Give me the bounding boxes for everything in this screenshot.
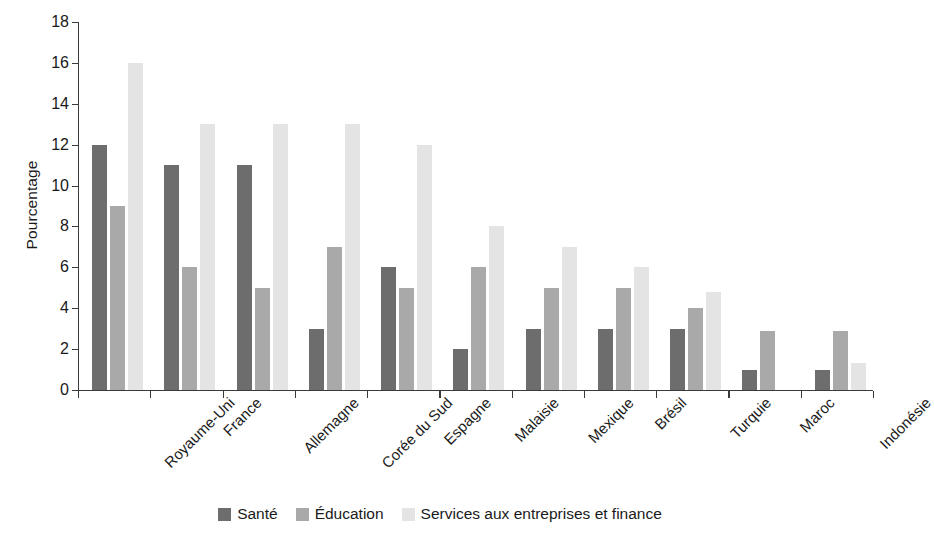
y-axis-tick-mark: [72, 186, 78, 187]
bar: [489, 226, 504, 390]
y-axis-tick-mark: [72, 349, 78, 350]
y-axis-tick-mark: [72, 308, 78, 309]
bar-group: [381, 22, 435, 390]
bar: [616, 288, 631, 390]
y-axis-tick-label: 16: [51, 54, 69, 72]
bar: [399, 288, 414, 390]
x-axis-tick-mark: [873, 391, 874, 398]
x-axis-labels: Royaume-UniFranceAllemagneCorée du SudEs…: [78, 394, 873, 489]
legend-label: Éducation: [315, 505, 384, 523]
x-axis-tick-label: Malaisie: [511, 394, 562, 445]
bar: [471, 267, 486, 390]
bar: [833, 331, 848, 390]
y-axis-tick-mark: [72, 267, 78, 268]
y-axis-tick-label: 8: [60, 217, 69, 235]
y-axis-tick-mark: [72, 22, 78, 23]
bar: [200, 124, 215, 390]
bar: [345, 124, 360, 390]
y-axis-tick-mark: [72, 104, 78, 105]
bar: [670, 329, 685, 390]
bar: [760, 331, 775, 390]
bar: [453, 349, 468, 390]
bar-group: [598, 22, 652, 390]
bar-group: [453, 22, 507, 390]
legend-swatch-icon: [402, 508, 415, 521]
bar-group: [526, 22, 580, 390]
plot-area: 024681012141618: [78, 22, 873, 390]
legend-item: Santé: [218, 505, 278, 523]
bar: [237, 165, 252, 390]
legend-swatch-icon: [296, 508, 309, 521]
bar: [851, 363, 866, 390]
x-axis-tick-label: Mexique: [584, 394, 636, 446]
x-axis-tick-label: Allemagne: [299, 394, 361, 456]
legend-item: Services aux entreprises et finance: [402, 505, 662, 523]
bar-group: [670, 22, 724, 390]
bar: [110, 206, 125, 390]
bar: [128, 63, 143, 390]
bar: [164, 165, 179, 390]
bar-group: [815, 22, 869, 390]
x-axis-tick-label: Maroc: [797, 394, 838, 435]
bar: [742, 370, 757, 390]
y-axis-line: [78, 22, 79, 390]
bar: [688, 308, 703, 390]
x-axis-tick-label: Turquie: [727, 394, 775, 442]
bar: [255, 288, 270, 390]
y-axis-tick-mark: [72, 63, 78, 64]
bar: [562, 247, 577, 390]
y-axis-tick-mark: [72, 145, 78, 146]
bar: [598, 329, 613, 390]
bar: [92, 145, 107, 390]
y-axis-tick-label: 4: [60, 299, 69, 317]
x-axis-tick-label: Brésil: [651, 394, 690, 433]
legend-label: Services aux entreprises et finance: [421, 505, 662, 523]
y-axis-tick-label: 10: [51, 177, 69, 195]
chart-legend: SantéÉducationServices aux entreprises e…: [0, 505, 889, 523]
bar: [182, 267, 197, 390]
y-axis-tick-label: 6: [60, 258, 69, 276]
bar: [544, 288, 559, 390]
bar: [417, 145, 432, 390]
legend-item: Éducation: [296, 505, 384, 523]
x-axis-line: [78, 390, 873, 391]
legend-label: Santé: [237, 505, 278, 523]
y-axis-tick-label: 18: [51, 13, 69, 31]
bar-group: [92, 22, 146, 390]
y-axis-tick-label: 14: [51, 95, 69, 113]
bar-group: [309, 22, 363, 390]
bar: [381, 267, 396, 390]
y-axis-tick-label: 12: [51, 136, 69, 154]
bar: [309, 329, 324, 390]
bar-group: [237, 22, 291, 390]
bar: [706, 292, 721, 390]
bar-group: [742, 22, 796, 390]
bar-group: [164, 22, 218, 390]
y-axis-tick-label: 0: [60, 381, 69, 399]
bar: [634, 267, 649, 390]
bar: [273, 124, 288, 390]
x-axis-tick-label: Indonésie: [876, 394, 934, 452]
bar: [327, 247, 342, 390]
y-axis-tick-mark: [72, 226, 78, 227]
bar: [526, 329, 541, 390]
y-axis-tick-label: 2: [60, 340, 69, 358]
bar: [815, 370, 830, 390]
legend-swatch-icon: [218, 508, 231, 521]
y-axis-title: Pourcentage: [23, 125, 41, 285]
